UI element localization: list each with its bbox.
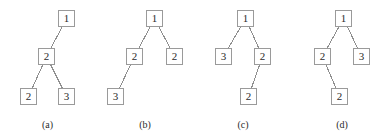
panel-caption: (b) (96, 119, 194, 130)
panel-caption: (c) (194, 119, 292, 130)
panel-caption: (a) (0, 119, 97, 130)
tree-captions-layer: (a)(b)(c)(d) (0, 0, 392, 139)
tree-figure: 1223122313221232 (a)(b)(c)(d) (0, 0, 392, 139)
panel-caption: (d) (293, 119, 391, 130)
